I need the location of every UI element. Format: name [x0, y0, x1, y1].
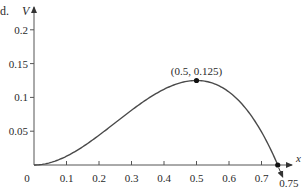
x-tick-label: 0.7: [255, 172, 269, 184]
root-point-marker: [275, 162, 280, 167]
y-tick-label: 0.15: [9, 58, 29, 70]
root-point-label: 0.75: [279, 177, 299, 189]
curve-line: [34, 81, 278, 166]
x-tick-label: 0.4: [157, 172, 171, 184]
x-tick-label: 0.3: [125, 172, 139, 184]
max-point-marker: [194, 78, 199, 83]
x-axis-label: x: [295, 152, 301, 164]
y-tick-label: 0.1: [14, 91, 28, 103]
x-tick-label: 0.6: [222, 172, 236, 184]
root-arrow: [279, 168, 283, 177]
x-tick-label: 0.1: [60, 172, 74, 184]
y-axis-label: V: [22, 4, 31, 18]
chart: xV0 0.10.20.30.40.50.60.70.050.10.150.2 …: [0, 0, 302, 189]
annotations: (0.5, 0.125)0.75: [171, 65, 299, 190]
ticks: 0.10.20.30.40.50.60.70.050.10.150.2: [9, 24, 269, 184]
x-tick-label: 0.5: [190, 172, 204, 184]
x-tick-label: 0.2: [92, 172, 106, 184]
max-point-label: (0.5, 0.125): [171, 65, 223, 78]
y-tick-label: 0.2: [14, 24, 28, 36]
origin-label: 0: [24, 172, 30, 184]
y-tick-label: 0.05: [9, 125, 29, 137]
